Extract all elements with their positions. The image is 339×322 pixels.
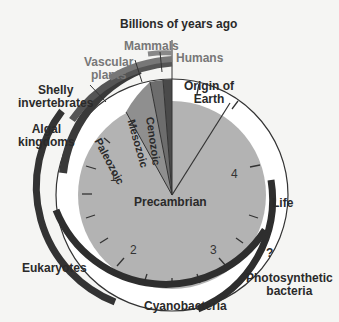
label-mammals: Mammals [124,40,179,53]
label-humans: Humans [176,52,223,65]
tick-label-3: 3 [210,244,217,257]
label-question: ? [266,247,273,260]
label-precambrian: Precambrian [134,196,207,209]
label-algal-kingdoms: Algal kingdoms [18,123,75,149]
label-cyanobacteria: Cyanobacteria [144,300,227,313]
label-photosynthetic-bacteria: Photosynthetic bacteria [246,272,333,298]
label-origin-of-earth: Origin of Earth [184,80,234,106]
label-shelly-invertebrates: Shelly invertebrates [18,84,93,110]
label-vascular-plants: Vascular plants [84,56,133,82]
tick-label-2: 2 [130,244,137,257]
geologic-time-clock-diagram: Billions of years ago Mammals Humans Vas… [0,0,339,322]
label-life: Life [272,197,293,210]
tick-label-1: 1 [110,171,117,184]
tick-label-4: 4 [231,168,238,181]
label-eukaryotes: Eukaryotes [22,262,87,275]
chart-title: Billions of years ago [120,18,237,31]
